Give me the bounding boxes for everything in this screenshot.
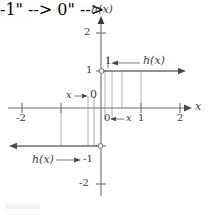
x-tick-label-neg2: -2 [16,113,26,123]
open-endpoint-positive [99,69,104,74]
y-tick-label-neg2: -2 [79,178,89,188]
left-approach-arrowhead-icon [82,94,88,98]
x-tick-label-0: 0 [104,113,110,123]
x-axis-label: x [195,101,201,112]
left-approach-variable-label: x [66,90,72,100]
top-branch-function-label: h(x) [143,55,165,66]
open-endpoint-negative [98,144,103,149]
branch-positive-arrowhead-icon [178,68,186,74]
branch-negative-arrowhead-icon [9,143,17,149]
y-tick-label-2: 2 [84,27,90,37]
bottom-branch-function-label: h(x) [32,154,54,165]
x-tick-label-1: 1 [138,113,144,123]
left-approach-target-label: 0 [90,89,97,100]
right-approach-variable-label: x [126,113,132,123]
y-axis-label: h(x) [91,4,113,15]
scan-artifact [6,203,40,209]
top-annotation-arrowhead-icon [111,61,118,66]
y-axis-arrowhead-icon [98,16,105,24]
signum-function-figure: ===== --> 0 ===== --> h(x) x 2 1 -2 -2 0… [0,0,211,217]
bottom-annotation-arrowhead-icon [74,158,81,163]
x-tick-label-2: 2 [177,113,183,123]
y-tick-label-1: 1 [86,65,92,75]
x-axis-arrowhead-icon [184,105,192,112]
right-approach-arrowhead-icon [110,117,116,121]
bottom-branch-value-label: -1 [83,154,93,164]
top-branch-value-label: 1 [105,56,111,66]
graph-canvas: ===== --> 0 ===== --> [0,0,211,217]
